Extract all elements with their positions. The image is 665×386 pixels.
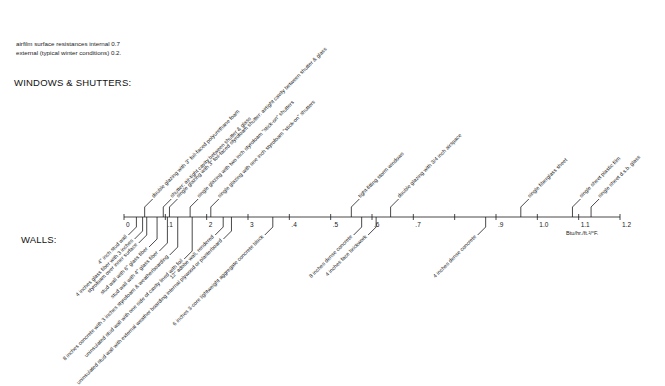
window-leader-line xyxy=(163,199,171,217)
window-leader-line xyxy=(145,199,153,217)
axis-tick-label: 0 xyxy=(126,221,130,228)
axis-tick-label: .1 xyxy=(167,221,173,228)
window-leader-line xyxy=(211,199,219,217)
wall-label: 6 inches 3-core lightweight aggregate co… xyxy=(171,233,264,326)
wall-leader-line xyxy=(159,217,167,251)
wall-leader-line xyxy=(215,217,223,235)
window-leader-line xyxy=(572,199,580,217)
window-leader-line xyxy=(521,199,529,217)
window-leader-line xyxy=(591,199,599,217)
window-shutter-label: single fiberglass sheet xyxy=(526,156,568,198)
axis-tick-label: 1.1 xyxy=(581,221,590,228)
window-shutter-label: single glazing with 3" foil-faced styrof… xyxy=(175,46,328,199)
wall-leader-line xyxy=(354,217,362,235)
window-leader-line xyxy=(391,199,399,217)
wall-leader-line xyxy=(265,217,273,235)
wall-label: 4 inches dense concrete xyxy=(432,233,478,279)
axis-tick-label: .9 xyxy=(498,221,504,228)
wall-leader-line xyxy=(149,217,157,247)
u-value-scale-diagram: 0.123.4.5.6.7.91.01.11.2Btu/hr./ft.²/°F.… xyxy=(0,0,665,386)
window-shutter-label: double glazing with 3/4 inch airspace xyxy=(396,132,463,199)
axis-tick-label: .4 xyxy=(291,221,297,228)
walls-labels: 4" inch stud wall4 inches glass fiber wi… xyxy=(61,217,485,385)
axis-tick-label: .6 xyxy=(374,221,380,228)
wall-leader-line xyxy=(223,217,231,239)
axis-tick-label: 3 xyxy=(250,221,254,228)
axis-tick-label: 2 xyxy=(209,221,213,228)
windows-shutters-labels: double glazing with 3" foil-faced polyur… xyxy=(145,46,642,217)
window-leader-line xyxy=(351,199,359,217)
window-leader-line xyxy=(190,199,198,217)
axis-tick-label: 1.2 xyxy=(622,221,631,228)
u-value-axis: 0.123.4.5.6.7.91.01.11.2Btu/hr./ft.²/°F. xyxy=(124,214,631,236)
window-leader-line xyxy=(169,199,177,217)
axis-tick-label: 1.0 xyxy=(539,221,548,228)
window-shutter-label: single glazing with two inch styrofoam "… xyxy=(196,99,296,199)
axis-tick-label: .5 xyxy=(333,221,339,228)
wall-leader-line xyxy=(478,217,486,235)
axis-unit-label: Btu/hr./ft.²/°F. xyxy=(566,230,599,236)
axis-tick-label: .7 xyxy=(415,221,421,228)
